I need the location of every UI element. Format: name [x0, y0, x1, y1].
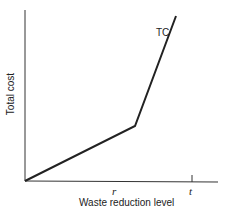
tick-label-t: t: [189, 186, 192, 196]
tc-curve: [25, 16, 176, 181]
y-axis-label: Total cost: [6, 73, 16, 115]
x-axis-label: Waste reduction level: [79, 198, 174, 208]
tick-label-r: r: [112, 186, 116, 196]
x-axis: [25, 181, 218, 182]
tc-label: TC: [156, 28, 169, 38]
cost-diagram: [0, 0, 229, 216]
